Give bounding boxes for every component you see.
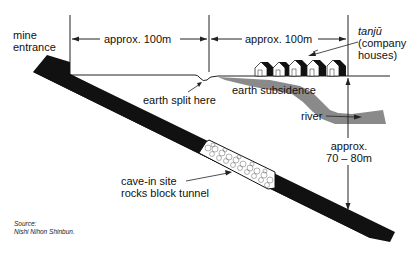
- company-houses: [255, 60, 346, 76]
- arrow-up-icon: [346, 78, 351, 85]
- label-depth: approx. 70 – 80m: [324, 140, 374, 164]
- label-mine-entrance: mine entrance: [13, 29, 56, 53]
- label-distance-2: approx. 100m: [245, 33, 312, 45]
- label-company-houses: tanjū (company houses): [358, 25, 406, 61]
- arrow-left-icon: [72, 37, 79, 42]
- label-distance-1: approx. 100m: [104, 33, 171, 45]
- arrow-icon: [225, 170, 232, 176]
- label-river: river: [301, 110, 322, 122]
- arrow-icon: [308, 52, 316, 57]
- cave-in-rocks: [199, 140, 275, 189]
- label-cave-in: cave-in site rocks block tunnel: [121, 175, 209, 199]
- arrow-right-icon: [339, 37, 346, 42]
- source-citation: Source: Nishi Nihon Shinbun.: [14, 220, 75, 236]
- arrow-right-icon: [200, 37, 207, 42]
- label-earth-subsidence: earth subsidence: [232, 84, 316, 96]
- arrow-left-icon: [211, 37, 218, 42]
- mine-diagram: [0, 0, 419, 254]
- arrow-icon: [197, 82, 202, 87]
- label-earth-split: earth split here: [143, 94, 216, 106]
